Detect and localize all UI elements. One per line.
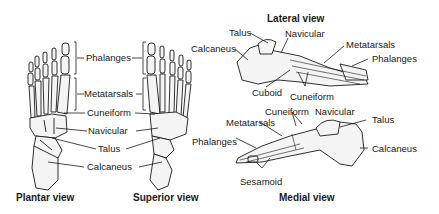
- medial-label-phalanges: Phalanges: [192, 137, 237, 147]
- medial-label-calcaneus: Calcaneus: [372, 144, 417, 154]
- lateral-label-talus: Talus: [229, 28, 251, 38]
- lateral-label-metatarsals: Metatarsals: [346, 40, 395, 50]
- medial-label-navicular: Navicular: [315, 107, 355, 117]
- lateral-view-title: Lateral view: [267, 14, 324, 24]
- plantar-label-metatarsals: Metatarsals: [84, 89, 133, 99]
- lateral-label-calcaneus: Calcaneus: [191, 44, 236, 54]
- plantar-label-calcaneus: Calcaneus: [87, 162, 132, 172]
- plantar-label-phalanges: Phalanges: [86, 53, 131, 63]
- medial-label-sesamoid: Sesamoid: [240, 177, 282, 187]
- superior-foot-drawing: [147, 43, 191, 190]
- lateral-label-phalanges: Phalanges: [372, 54, 417, 64]
- medial-label-talus: Talus: [372, 115, 394, 125]
- medial-label-metatarsals: Metatarsals: [226, 118, 275, 128]
- lateral-label-navicular: Navicular: [285, 29, 325, 39]
- foot-bones-illustration: [0, 0, 439, 214]
- plantar-view-title: Plantar view: [16, 193, 74, 203]
- plantar-label-cuneiform: Cuneiform: [87, 108, 131, 118]
- superior-view-title: Superior view: [133, 193, 199, 203]
- medial-label-cuneiform: Cuneiform: [265, 107, 309, 117]
- plantar-label-navicular: Navicular: [88, 126, 128, 136]
- lateral-label-cuboid: Cuboid: [252, 88, 282, 98]
- medial-view-title: Medial view: [279, 193, 335, 203]
- lateral-label-cuneiform: Cuneiform: [290, 92, 334, 102]
- plantar-foot-drawing: [28, 43, 70, 190]
- plantar-label-talus: Talus: [98, 144, 120, 154]
